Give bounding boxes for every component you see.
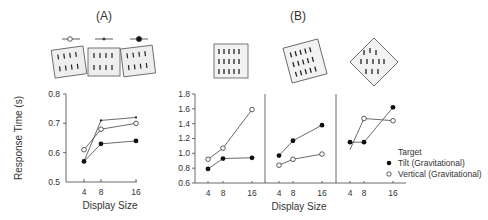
filled-circle-marker xyxy=(134,139,139,144)
filled-circle-marker xyxy=(391,105,396,110)
panel-a-yticks: 0.80.7 0.60.5 xyxy=(48,89,60,187)
legend: Target Tilt (Gravitational) Vertical (Gr… xyxy=(387,147,482,179)
svg-text:4: 4 xyxy=(206,188,211,198)
svg-text:1.4: 1.4 xyxy=(178,119,190,129)
panel-a-plot xyxy=(82,116,139,164)
legend-title: Target xyxy=(398,147,422,157)
panel-b-xticks: 4816 4816 4816 xyxy=(206,188,398,198)
svg-text:8: 8 xyxy=(221,188,226,198)
svg-text:8: 8 xyxy=(291,188,296,198)
panel-b-plot xyxy=(206,105,396,171)
small-dot-marker xyxy=(100,119,102,121)
panel-b-stimuli xyxy=(214,36,398,86)
panel-b-x-axis-label: Display Size xyxy=(271,201,326,212)
filled-circle-marker xyxy=(291,138,296,143)
open-circle-marker xyxy=(221,146,226,151)
panel-b-yticks: 1.81.61.4 1.21.00.8 0.6 xyxy=(178,89,190,188)
svg-text:16: 16 xyxy=(388,188,398,198)
open-circle-marker xyxy=(206,157,211,162)
svg-text:0.6: 0.6 xyxy=(178,178,190,188)
panel-a-key xyxy=(62,36,148,41)
svg-text:8: 8 xyxy=(99,187,104,197)
filled-circle-marker xyxy=(362,140,367,145)
panel-a-title: (A) xyxy=(96,9,112,23)
open-circle-marker xyxy=(99,127,104,132)
svg-text:1.0: 1.0 xyxy=(178,148,190,158)
svg-text:1.2: 1.2 xyxy=(178,133,190,143)
panel-a-stimuli xyxy=(51,45,155,78)
panel-a-axes xyxy=(63,94,137,182)
filled-circle-marker xyxy=(348,140,353,145)
panel-a-xticks: 4816 xyxy=(82,187,141,197)
panel-a-x-axis-label: Display Size xyxy=(82,200,137,211)
svg-text:0.8: 0.8 xyxy=(48,89,60,99)
filled-circle-marker xyxy=(320,123,325,128)
filled-circle-marker xyxy=(206,167,211,172)
open-circle-marker xyxy=(250,107,255,112)
svg-text:16: 16 xyxy=(247,188,257,198)
filled-circle-marker xyxy=(250,155,255,160)
legend-item-tilt: Tilt (Gravitational) xyxy=(398,158,465,168)
svg-text:0.8: 0.8 xyxy=(178,163,190,173)
svg-text:4: 4 xyxy=(348,188,353,198)
panel-b-title: (B) xyxy=(290,9,306,23)
filled-circle-marker xyxy=(99,141,104,146)
svg-text:16: 16 xyxy=(131,187,141,197)
svg-text:1.6: 1.6 xyxy=(178,104,190,114)
y-axis-label: Response Time (s) xyxy=(13,96,24,180)
legend-item-vertical: Vertical (Gravitational) xyxy=(398,169,482,179)
open-circle-marker xyxy=(320,152,325,157)
svg-text:0.7: 0.7 xyxy=(48,118,60,128)
small-dot-marker xyxy=(135,116,137,118)
filled-circle-marker xyxy=(82,159,87,164)
filled-circle-marker xyxy=(221,156,226,161)
svg-text:1.8: 1.8 xyxy=(178,89,190,99)
filled-circle-icon xyxy=(387,161,392,166)
open-circle-marker xyxy=(134,121,139,126)
open-circle-marker xyxy=(291,157,296,162)
filled-circle-marker xyxy=(277,153,282,158)
svg-text:8: 8 xyxy=(362,188,367,198)
open-circle-icon xyxy=(387,172,391,176)
svg-text:0.6: 0.6 xyxy=(48,148,60,158)
svg-text:4: 4 xyxy=(277,188,282,198)
figure: (A) (B) xyxy=(0,0,488,220)
svg-text:4: 4 xyxy=(82,187,87,197)
open-circle-marker xyxy=(362,116,367,121)
open-circle-marker xyxy=(277,163,282,168)
panel-b-axes xyxy=(192,94,406,183)
svg-text:16: 16 xyxy=(317,188,327,198)
open-circle-marker xyxy=(391,118,396,123)
open-circle-marker xyxy=(82,147,87,152)
svg-text:0.5: 0.5 xyxy=(48,177,60,187)
